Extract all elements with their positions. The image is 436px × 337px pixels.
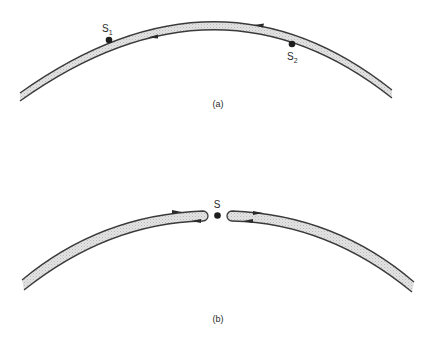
source-s-dot [214,212,221,219]
panel-b-right-band [227,211,414,292]
wave-propagation-figure: S1 S2 (a) S [0,0,436,337]
source-s2-label: S2 [287,51,298,64]
source-s2-dot [289,41,296,48]
panel-a: S1 S2 (a) [20,22,392,109]
panel-b-right-outline [227,211,414,292]
source-s1-dot [106,37,113,44]
panel-b-left-outline [22,211,208,290]
figure-canvas: S1 S2 (a) S [0,0,436,337]
panel-b: S (b) [22,199,414,324]
source-s-label: S [214,199,221,210]
panel-b-caption: (b) [213,314,224,324]
source-s1-label: S1 [102,23,113,36]
panel-a-caption: (a) [213,99,224,109]
